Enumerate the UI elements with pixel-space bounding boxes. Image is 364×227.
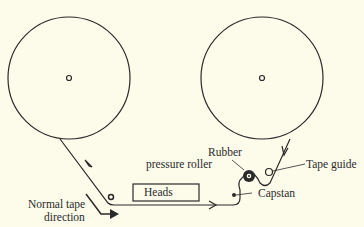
direction-label-2: direction xyxy=(44,211,85,224)
capstan-leader xyxy=(236,193,252,195)
takeup-reel xyxy=(201,17,323,139)
arrowhead-direction-icon xyxy=(110,209,119,219)
tape-guide-label: Tape guide xyxy=(306,158,357,171)
pressure-roller-label-2: pressure roller xyxy=(146,158,212,171)
pressure-roller-leader xyxy=(232,160,244,170)
pressure-roller-label-1: Rubber xyxy=(208,146,242,159)
idler-guide xyxy=(109,195,114,200)
capstan-label: Capstan xyxy=(258,187,295,200)
arrow-up-icon xyxy=(85,160,92,167)
tape-path xyxy=(60,139,290,205)
direction-label-1: Normal tape xyxy=(28,198,85,211)
tape-transport-diagram xyxy=(0,0,364,227)
heads-label: Heads xyxy=(144,186,173,199)
takeup-reel-hub xyxy=(260,76,265,81)
supply-reel xyxy=(8,17,130,139)
tape-guide xyxy=(266,169,273,176)
supply-reel-hub xyxy=(67,76,72,81)
capstan xyxy=(232,193,236,197)
